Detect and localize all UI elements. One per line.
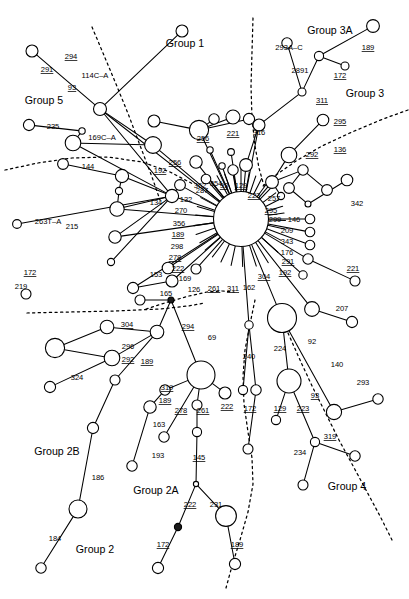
network-edge [80,434,92,501]
haplotype-node[interactable] [219,387,231,399]
haplotype-node[interactable] [107,258,114,265]
haplotype-node[interactable] [192,427,201,436]
haplotype-node[interactable] [299,271,307,279]
haplotype-node[interactable] [148,115,160,127]
haplotype-node[interactable] [243,444,253,454]
haplotype-node[interactable] [303,254,313,264]
haplotype-node[interactable] [281,147,297,163]
haplotype-node[interactable] [23,119,34,130]
haplotype-node[interactable] [36,563,46,573]
haplotype-node[interactable] [240,159,253,172]
mutation-label: 319 [324,432,337,441]
haplotype-node[interactable] [305,240,315,250]
haplotype-node[interactable] [115,169,128,182]
haplotype-node[interactable] [45,338,64,357]
haplotype-node[interactable] [305,302,320,317]
haplotype-node[interactable] [277,369,301,393]
haplotype-node[interactable] [266,176,279,189]
haplotype-node[interactable] [79,128,85,134]
haplotype-node[interactable] [310,437,319,446]
mutation-label: 193 [152,451,165,460]
haplotype-node[interactable] [135,295,145,305]
haplotype-node[interactable] [350,451,360,461]
haplotype-node[interactable] [176,25,188,37]
haplotype-node[interactable] [193,481,198,486]
haplotype-node[interactable] [209,114,219,124]
haplotype-node[interactable] [191,264,201,274]
haplotype-node[interactable] [251,385,261,395]
haplotype-node[interactable] [165,189,178,202]
mutation-label: 354 [210,179,223,188]
haplotype-node[interactable] [104,350,120,366]
haplotype-node[interactable] [110,375,120,385]
haplotype-node[interactable] [228,149,235,156]
haplotype-node[interactable] [127,282,138,293]
haplotype-node[interactable] [159,432,169,442]
haplotype-node[interactable] [367,20,380,33]
mutation-label: 192 [279,268,292,277]
mutation-label: 294 [65,52,78,61]
mutation-label: 209 [281,226,294,235]
haplotype-node[interactable] [110,202,124,216]
haplotype-node[interactable] [166,275,178,287]
mutation-label: 162 [243,283,256,292]
haplotype-node[interactable] [314,51,323,60]
mutation-label: 189 [231,540,244,549]
mutation-label: 257 [268,194,281,203]
haplotype-node[interactable] [305,227,315,237]
haplotype-node[interactable] [58,159,69,170]
mutation-label: 219 [15,282,28,291]
haplotype-node[interactable] [207,147,213,153]
mutation-label: 263T–A [35,217,63,226]
haplotype-node[interactable] [226,110,240,124]
haplotype-node[interactable] [317,114,329,126]
haplotype-node[interactable] [268,304,297,333]
haplotype-node[interactable] [26,45,38,57]
network-edge [278,172,298,180]
haplotype-node[interactable] [190,156,202,168]
mutation-label: 114C–A [82,71,110,80]
haplotype-node[interactable] [187,361,215,389]
haplotype-node[interactable] [127,461,137,471]
haplotype-node[interactable] [87,422,98,433]
haplotype-node[interactable] [229,558,240,569]
haplotype-node[interactable] [298,88,306,96]
haplotype-node[interactable] [175,180,186,191]
haplotype-node[interactable] [152,562,163,573]
haplotype-node[interactable] [284,183,295,194]
haplotype-node[interactable] [322,185,333,196]
haplotype-node[interactable] [145,137,162,154]
haplotype-node[interactable] [346,316,357,327]
haplotype-node[interactable] [115,187,122,194]
mutation-label: 140 [331,360,344,369]
haplotype-node[interactable] [341,62,349,70]
haplotype-node[interactable] [174,523,181,530]
haplotype-node[interactable] [326,404,341,419]
haplotype-node[interactable] [150,325,164,339]
haplotype-node[interactable] [238,385,247,394]
haplotype-node[interactable] [219,163,225,169]
haplotype-node[interactable] [373,394,383,404]
haplotype-node[interactable] [245,321,253,329]
haplotype-node[interactable] [109,231,121,243]
haplotype-node[interactable] [350,276,360,286]
haplotype-node[interactable] [271,415,280,424]
haplotype-node[interactable] [298,480,308,490]
haplotype-node[interactable] [305,214,315,224]
haplotype-node[interactable] [69,500,87,518]
mutation-label: 221 [347,264,360,273]
haplotype-node[interactable] [100,320,114,334]
haplotype-node[interactable] [13,220,22,229]
haplotype-node[interactable] [94,103,107,116]
haplotype-node[interactable] [305,201,311,207]
haplotype-node[interactable] [44,381,55,392]
haplotype-node[interactable] [65,135,81,151]
network-edge [275,162,284,177]
hub-spoke [221,244,229,262]
haplotype-node[interactable] [341,174,353,186]
haplotype-node[interactable] [228,165,238,175]
mutation-label: 144 [82,162,95,171]
haplotype-node[interactable] [144,401,156,413]
mutation-label: 293A–C [275,43,303,52]
haplotype-node[interactable] [298,165,308,175]
